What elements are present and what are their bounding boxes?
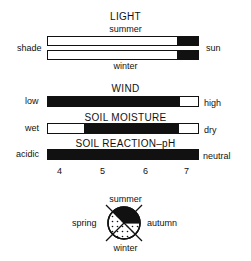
soil-moisture-bar	[47, 123, 199, 134]
light-winter-label: winter	[0, 61, 251, 71]
soil-moisture-mid-segment	[84, 124, 179, 133]
light-summer-sun-segment	[177, 37, 198, 45]
wind-high-label: high	[204, 98, 221, 108]
soil-moisture-title: SOIL MOISTURE	[0, 112, 251, 123]
ph-tick-6: 6	[143, 166, 148, 176]
season-spring-label: spring	[72, 218, 97, 228]
wind-low-label: low	[25, 96, 39, 106]
light-winter-bar	[47, 50, 199, 60]
soil-moisture-wet-label: wet	[25, 123, 39, 133]
light-winter-shade-segment	[48, 51, 177, 59]
light-shade-label: shade	[17, 43, 42, 53]
soil-ph-neutral-label: neutral	[203, 151, 231, 161]
soil-moisture-wet-segment	[48, 124, 84, 133]
wind-low-segment	[48, 97, 180, 106]
light-winter-sun-segment	[177, 51, 198, 59]
soil-moisture-dry-segment	[179, 124, 199, 133]
season-circle-icon	[100, 199, 148, 247]
soil-ph-segment	[48, 150, 198, 159]
wind-high-segment	[180, 97, 198, 106]
light-summer-bar	[47, 36, 199, 46]
soil-ph-bar	[47, 149, 199, 160]
light-title: LIGHT	[0, 11, 251, 22]
light-sun-label: sun	[206, 43, 221, 53]
ph-tick-7: 7	[184, 166, 189, 176]
soil-ph-title: SOIL REACTION–pH	[0, 138, 251, 149]
wind-title: WIND	[0, 83, 251, 94]
soil-ph-acidic-label: acidic	[16, 149, 39, 159]
light-summer-label: summer	[0, 24, 251, 34]
season-autumn-label: autumn	[147, 218, 177, 228]
light-summer-shade-segment	[48, 37, 177, 45]
wind-bar	[47, 96, 199, 107]
ph-tick-4: 4	[57, 166, 62, 176]
ph-tick-5: 5	[100, 166, 105, 176]
soil-moisture-dry-label: dry	[204, 125, 217, 135]
